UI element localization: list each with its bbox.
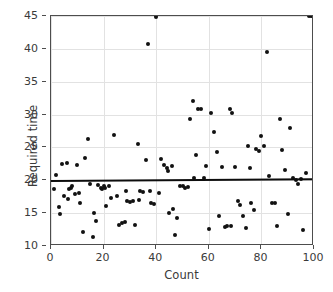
data-point <box>288 126 292 130</box>
data-point <box>220 165 224 169</box>
data-point <box>166 169 170 173</box>
y-tick-label: 35 <box>0 74 38 87</box>
data-point <box>278 117 282 121</box>
data-point <box>159 157 163 161</box>
data-point <box>188 117 192 121</box>
data-point <box>173 233 177 237</box>
data-point <box>194 153 198 157</box>
data-point <box>52 187 56 191</box>
data-point <box>109 196 113 200</box>
data-point <box>92 211 96 215</box>
data-point <box>217 214 221 218</box>
data-point <box>207 227 211 231</box>
y-tick-mark <box>42 146 46 147</box>
data-point <box>301 228 305 232</box>
data-point <box>123 220 127 224</box>
data-point <box>212 130 216 134</box>
data-point <box>88 182 92 186</box>
data-point <box>70 184 74 188</box>
x-tick-mark <box>103 245 104 249</box>
plot-area <box>50 15 313 245</box>
data-point <box>131 199 135 203</box>
y-tick-label: 20 <box>0 173 38 186</box>
y-tick-mark <box>42 114 46 115</box>
data-point <box>215 150 219 154</box>
x-tick-label: 0 <box>30 251 70 264</box>
data-point <box>283 168 287 172</box>
x-tick-mark <box>313 245 314 249</box>
data-point <box>304 171 308 175</box>
x-axis-label: Count <box>50 268 313 282</box>
x-tick-mark <box>155 245 156 249</box>
data-point <box>60 162 64 166</box>
data-point <box>170 164 174 168</box>
data-point <box>124 189 128 193</box>
y-axis-ticks: 1015202530354045 <box>0 15 46 245</box>
data-point <box>66 197 70 201</box>
data-point <box>228 107 232 111</box>
x-tick-label: 60 <box>188 251 228 264</box>
data-point <box>286 212 290 216</box>
data-point <box>175 216 179 220</box>
gridline-horizontal <box>51 213 312 214</box>
data-point <box>248 166 252 170</box>
data-point <box>252 208 256 212</box>
data-point <box>152 202 156 206</box>
y-tick-mark <box>42 212 46 213</box>
scatter-plot-figure: Required time 1015202530354045 020406080… <box>0 0 333 292</box>
data-point <box>199 107 203 111</box>
data-point <box>146 42 150 46</box>
y-tick-mark <box>42 81 46 82</box>
data-point <box>57 205 61 209</box>
y-tick-label: 25 <box>0 140 38 153</box>
data-point <box>144 158 148 162</box>
y-tick-label: 40 <box>0 41 38 54</box>
gridline-vertical <box>156 16 157 244</box>
data-point <box>77 191 81 195</box>
data-point <box>312 15 313 18</box>
gridline-vertical <box>209 16 210 244</box>
data-point <box>204 164 208 168</box>
data-point <box>81 230 85 234</box>
y-tick-label: 15 <box>0 206 38 219</box>
data-point <box>296 182 300 186</box>
data-point <box>157 191 161 195</box>
data-point <box>86 137 90 141</box>
data-point <box>167 211 171 215</box>
gridline-horizontal <box>51 147 312 148</box>
data-point <box>83 156 87 160</box>
data-point <box>191 99 195 103</box>
data-point <box>58 212 62 216</box>
x-tick-label: 80 <box>240 251 280 264</box>
gridline-horizontal <box>51 16 312 17</box>
data-point <box>154 15 158 19</box>
data-point <box>137 198 141 202</box>
data-point <box>265 50 269 54</box>
y-tick-label: 10 <box>0 239 38 252</box>
data-point <box>249 201 253 205</box>
data-point <box>54 173 58 177</box>
data-point <box>148 189 152 193</box>
y-tick-mark <box>42 245 46 246</box>
x-tick-label: 20 <box>83 251 123 264</box>
data-point <box>91 235 95 239</box>
data-point <box>115 194 119 198</box>
data-point <box>259 134 263 138</box>
data-point <box>229 224 233 228</box>
data-point <box>78 201 82 205</box>
data-point <box>133 223 137 227</box>
data-point <box>233 165 237 169</box>
data-point <box>94 219 98 223</box>
y-tick-mark <box>42 15 46 16</box>
y-tick-label: 45 <box>0 9 38 22</box>
y-tick-mark <box>42 179 46 180</box>
gridline-horizontal <box>51 49 312 50</box>
gridline-horizontal <box>51 115 312 116</box>
y-tick-label: 30 <box>0 107 38 120</box>
gridline-horizontal <box>51 82 312 83</box>
data-point <box>107 184 111 188</box>
data-point <box>275 224 279 228</box>
x-tick-label: 40 <box>135 251 175 264</box>
gridline-vertical <box>51 16 52 244</box>
data-point <box>186 185 190 189</box>
